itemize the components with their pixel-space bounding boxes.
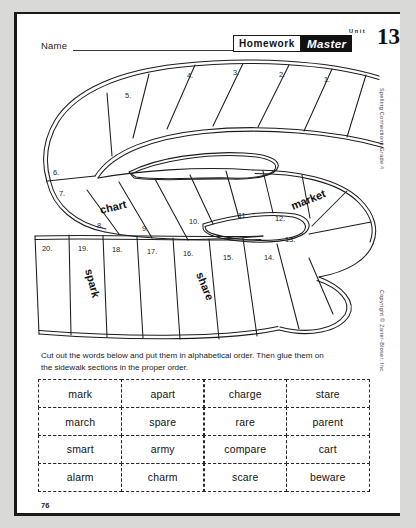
word-cut-card[interactable]: charm xyxy=(121,463,205,492)
page-number: 76 xyxy=(41,501,49,510)
name-write-line[interactable] xyxy=(73,50,241,51)
maze-number-18: 18. xyxy=(112,245,122,254)
worksheet-page: Name Homework Master Unit 13 Spelling Co… xyxy=(14,12,400,516)
word-bank-row: smart army compare cart xyxy=(39,435,369,463)
maze-number-8: 8. xyxy=(97,221,103,230)
unit-number: 13 xyxy=(377,25,400,48)
word-cut-card[interactable]: compare xyxy=(203,435,287,464)
word-cut-card[interactable]: alarm xyxy=(38,463,122,492)
word-cut-card[interactable]: apart xyxy=(121,379,205,408)
homework-label: Homework xyxy=(233,35,301,52)
word-cut-card[interactable]: cart xyxy=(286,435,370,464)
maze-number-14: 14. xyxy=(264,253,274,262)
maze-number-3: 3. xyxy=(233,68,239,77)
master-label: Master xyxy=(301,35,352,52)
word-cut-card[interactable]: spare xyxy=(121,407,205,436)
maze-number-5: 5. xyxy=(125,91,131,100)
maze-number-6: 6. xyxy=(53,168,59,177)
word-bank-row: march spare rare parent xyxy=(39,408,369,436)
sidewalk-maze: 1. 2. 3. 4. 5. 6. 7. 8. 9. 10. 11. 12. 1… xyxy=(27,58,393,348)
word-cut-card[interactable]: stare xyxy=(286,379,370,408)
instructions-text: Cut out the words below and put them in … xyxy=(41,350,337,373)
word-bank-row: alarm charm scare beware xyxy=(39,463,369,491)
maze-number-2: 2. xyxy=(279,70,285,79)
maze-number-19: 19. xyxy=(78,244,88,253)
word-cut-card[interactable]: parent xyxy=(286,407,370,436)
maze-number-11: 11. xyxy=(238,211,248,220)
unit-label: Unit xyxy=(349,28,366,34)
page-header: Name Homework Master Unit 13 xyxy=(17,14,400,62)
maze-number-7: 7. xyxy=(59,189,65,198)
maze-number-9: 9. xyxy=(142,224,148,233)
word-cut-card[interactable]: scare xyxy=(203,463,287,492)
maze-number-4: 4. xyxy=(187,71,193,80)
maze-number-13: 13. xyxy=(285,235,295,244)
maze-number-1: 1. xyxy=(324,75,330,84)
word-bank-table: mark apart charge stare march spare rare… xyxy=(39,380,369,491)
word-cut-card[interactable]: charge xyxy=(203,379,287,408)
name-label: Name xyxy=(41,40,67,51)
maze-number-17: 17. xyxy=(147,247,157,256)
word-bank-row: mark apart charge stare xyxy=(39,380,369,408)
maze-number-10: 10. xyxy=(189,217,199,226)
word-cut-card[interactable]: mark xyxy=(38,379,122,408)
word-cut-card[interactable]: beware xyxy=(286,463,370,492)
maze-number-16: 16. xyxy=(183,249,193,258)
maze-word-spark: spark xyxy=(83,267,102,299)
sidewalk-maze-svg: 1. 2. 3. 4. 5. 6. 7. 8. 9. 10. 11. 12. 1… xyxy=(27,58,393,348)
word-cut-card[interactable]: army xyxy=(121,435,205,464)
maze-number-15: 15. xyxy=(223,253,233,262)
word-cut-card[interactable]: march xyxy=(38,407,122,436)
homework-master-badge: Homework Master xyxy=(233,35,352,52)
word-cut-card[interactable]: smart xyxy=(38,435,122,464)
word-cut-card[interactable]: rare xyxy=(203,407,287,436)
maze-number-12: 12. xyxy=(275,214,285,223)
maze-word-chart: chart xyxy=(99,198,128,216)
maze-number-20: 20. xyxy=(42,244,52,253)
